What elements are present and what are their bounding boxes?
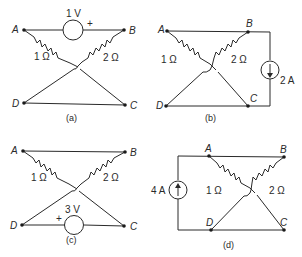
resistor-1-ohm [24,30,78,67]
plus-sign: + [56,213,62,224]
wire-d-to-c [24,103,125,105]
label-b: B [130,147,137,158]
circuit-figure: 1 V + 1 Ω 2 Ω A B D C (a) [0,0,302,257]
label-c: C [250,93,258,104]
wire-crossing-to-d [211,193,250,230]
resistor-2-label: 2 Ω [103,52,119,63]
voltage-source-3v [65,216,84,235]
wire-crossing-to-c [80,69,125,105]
resistor-1-label: 1 Ω [31,172,47,183]
wire-crossing-to-c [218,72,248,106]
source-value-label: 4 A [151,185,166,196]
label-d: D [12,98,19,109]
resistor-2-label: 2 Ω [269,185,285,196]
node-c [246,104,250,108]
wire-crossing-to-c [79,191,124,226]
panel-c: 3 V + 1 Ω 2 Ω A B D C (c) [10,145,138,245]
node-a [207,154,211,158]
caption-c: (c) [66,235,77,245]
wire-a-to-b [23,151,125,152]
label-b: B [246,18,253,29]
wire-crossing-to-d [24,66,78,103]
wire-source-to-c [84,225,124,226]
label-d: D [10,220,17,231]
node-d [209,228,213,232]
node-a [22,28,26,32]
source-value-label: 1 V [66,8,81,19]
resistor-1-label: 1 Ω [161,54,177,65]
node-d [20,223,24,227]
panel-d: 4 A 1 Ω 2 Ω A B D C (d) [151,143,288,250]
node-c [282,228,286,232]
panel-b: 2 A 1 Ω 2 Ω A B D C (b) [156,18,295,123]
caption-b: (b) [205,113,216,123]
label-a: A [204,143,212,154]
caption-a: (a) [66,113,77,123]
resistor-1-label: 1 Ω [34,51,50,62]
node-d [164,104,168,108]
arrow-up-head [175,183,181,188]
label-c: C [130,221,138,232]
panel-a: 1 V + 1 Ω 2 Ω A B D C (a) [11,8,138,123]
wire-crossing-to-d [166,70,210,106]
source-value-label: 2 A [280,75,295,86]
label-d: D [206,217,213,228]
node-a [21,149,25,153]
caption-d: (d) [223,240,234,250]
node-c [122,224,126,228]
resistor-2-label: 2 Ω [103,172,119,183]
node-b [122,28,126,32]
label-b: B [129,25,136,36]
wire-a-to-b-right [167,31,270,32]
plus-sign: + [87,18,93,29]
resistor-1-ohm [23,151,77,189]
label-c: C [130,100,138,111]
label-c: C [280,217,288,228]
label-a: A [157,24,165,35]
resistor-1-label: 1 Ω [206,185,222,196]
label-d: D [156,100,163,111]
node-b [246,30,250,34]
label-a: A [11,24,19,35]
resistor-2-label: 2 Ω [231,54,247,65]
voltage-source-1v [63,20,83,40]
source-value-label: 3 V [65,204,80,215]
label-b: B [280,144,287,155]
wire-left-to-a-to-b [178,156,284,157]
arrow-down-head [267,73,273,78]
node-b [123,150,127,154]
label-a: A [10,145,18,156]
node-c [123,103,127,107]
node-d [22,101,26,105]
node-b [282,155,286,159]
node-a [165,29,169,33]
